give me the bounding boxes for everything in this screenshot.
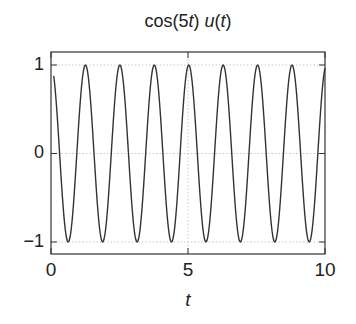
ytick-label-neg1: −1	[4, 231, 44, 252]
ytick-label-0: 0	[4, 142, 44, 163]
x-axis-label: t	[178, 289, 198, 311]
xtick-label-5: 5	[168, 259, 208, 281]
ytick-label-1: 1	[4, 54, 44, 75]
xtick-label-10: 10	[305, 259, 345, 281]
xtick-label-0: 0	[31, 259, 71, 281]
series-line-cos5t	[54, 65, 325, 242]
